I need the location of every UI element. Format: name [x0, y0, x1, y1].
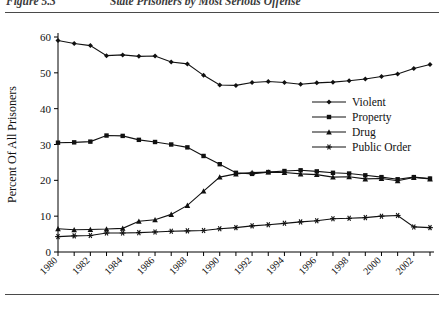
data-point-marker	[185, 145, 189, 149]
data-point-marker	[72, 140, 76, 144]
data-point-marker	[326, 144, 332, 149]
title-rule-top	[5, 12, 439, 13]
legend-label: Public Order	[352, 141, 411, 153]
data-point-marker	[265, 222, 271, 227]
data-point-marker	[362, 215, 368, 220]
data-point-marker	[201, 228, 207, 233]
legend-label: Property	[352, 111, 392, 124]
data-point-marker	[104, 53, 109, 58]
y-axis-tick-label: 30	[40, 139, 52, 151]
x-axis-tick-label: 1980	[37, 255, 59, 277]
data-point-marker	[411, 66, 416, 71]
figure-title-band: Figure 5.3 State Prisoners by Most Serio…	[0, 0, 444, 9]
data-point-marker	[120, 52, 125, 57]
data-point-marker	[153, 53, 158, 58]
data-point-marker	[168, 212, 174, 217]
series-line	[58, 215, 430, 236]
data-point-marker	[379, 214, 385, 219]
data-point-marker	[233, 83, 238, 88]
figure-caption: State Prisoners by Most Serious Offense	[110, 0, 301, 7]
data-point-marker	[428, 62, 433, 67]
series-public-order	[55, 213, 433, 239]
data-point-marker	[379, 74, 384, 79]
series-line	[58, 41, 430, 86]
data-point-marker	[249, 223, 255, 228]
legend-label: Drug	[352, 126, 376, 139]
data-point-marker	[282, 221, 288, 226]
data-point-marker	[120, 230, 126, 235]
legend-item-public-order: Public Order	[312, 141, 411, 153]
data-point-marker	[282, 80, 287, 85]
y-axis-title: Percent Of All Prisoners	[5, 86, 19, 203]
data-point-marker	[218, 162, 222, 166]
x-axis-tick-label: 1984	[102, 255, 124, 277]
figure-container: Figure 5.3 State Prisoners by Most Serio…	[0, 0, 444, 310]
data-point-marker	[327, 115, 331, 119]
figure-rule-bottom	[5, 294, 439, 295]
legend-label: Violent	[352, 96, 387, 108]
y-axis-tick-label: 50	[40, 67, 52, 79]
data-point-marker	[363, 76, 368, 81]
legend-item-drug: Drug	[312, 126, 376, 139]
data-point-marker	[314, 80, 319, 85]
data-point-marker	[153, 140, 157, 144]
x-axis-tick-label: 1988	[167, 255, 189, 277]
y-axis-tick-label: 20	[40, 174, 52, 186]
data-point-marker	[427, 225, 433, 230]
data-point-marker	[104, 133, 108, 137]
data-point-marker	[298, 219, 304, 224]
y-axis-tick-label: 60	[40, 31, 52, 43]
data-point-marker	[169, 142, 173, 146]
data-point-marker	[250, 80, 255, 85]
data-point-marker	[72, 41, 77, 46]
series-violent	[56, 38, 433, 88]
y-axis-tick-label: 10	[40, 210, 52, 222]
legend-item-violent: Violent	[312, 96, 387, 108]
data-point-marker	[56, 38, 61, 43]
series-line	[58, 172, 430, 230]
data-point-marker	[136, 54, 141, 59]
series-drug	[55, 169, 433, 232]
data-point-marker	[266, 79, 271, 84]
data-point-marker	[120, 134, 124, 138]
data-point-marker	[136, 230, 142, 235]
x-axis-tick-label: 1996	[296, 255, 318, 277]
legend-item-property: Property	[312, 111, 392, 124]
y-axis-tick-label: 40	[40, 103, 52, 115]
data-point-marker	[184, 228, 190, 233]
data-point-marker	[217, 83, 222, 88]
x-axis-tick-label: 1992	[232, 255, 254, 277]
data-point-marker	[346, 216, 352, 221]
data-point-marker	[137, 138, 141, 142]
x-axis-tick-label: 2002	[393, 255, 415, 277]
figure-number: Figure 5.3	[6, 0, 56, 7]
x-axis-tick-label: 1990	[199, 255, 221, 277]
data-point-marker	[87, 233, 93, 238]
x-axis-tick-label: 2000	[361, 255, 383, 277]
data-point-marker	[395, 71, 400, 76]
data-point-marker	[233, 225, 239, 230]
data-point-marker	[314, 218, 320, 223]
data-point-marker	[168, 229, 174, 234]
line-chart: 0102030405060Percent Of All Prisoners198…	[0, 14, 444, 296]
data-point-marker	[169, 60, 174, 65]
data-point-marker	[327, 100, 332, 105]
x-axis-tick-label: 1986	[135, 255, 157, 277]
x-axis-tick-label: 1998	[329, 255, 351, 277]
data-point-marker	[88, 43, 93, 48]
data-point-marker	[56, 141, 60, 145]
data-point-marker	[88, 139, 92, 143]
data-point-marker	[330, 80, 335, 85]
x-axis-tick-label: 1994	[264, 255, 286, 277]
data-point-marker	[298, 82, 303, 87]
data-point-marker	[152, 229, 158, 234]
data-point-marker	[71, 233, 77, 238]
data-point-marker	[347, 78, 352, 83]
data-point-marker	[217, 226, 223, 231]
data-point-marker	[330, 216, 336, 221]
x-axis-tick-label: 1982	[70, 255, 92, 277]
data-point-marker	[201, 154, 205, 158]
